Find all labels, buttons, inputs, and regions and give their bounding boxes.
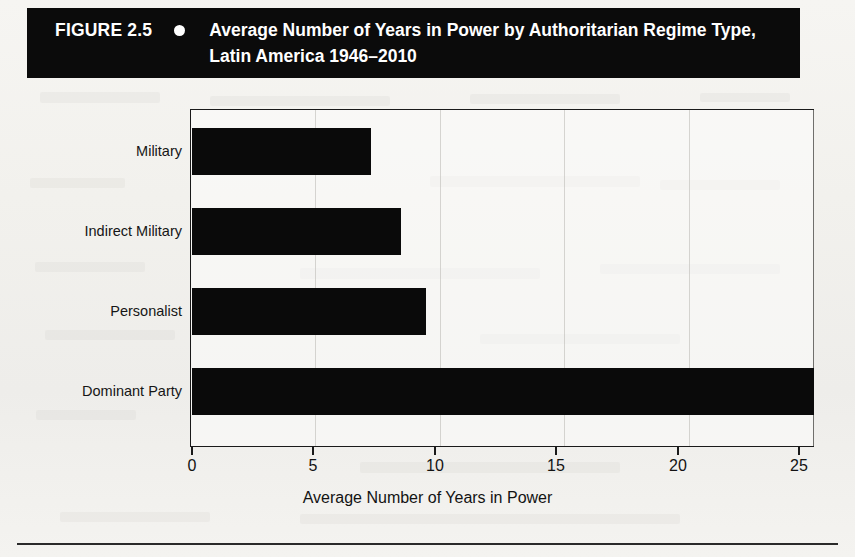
x-axis: 0 5 10 15 20 25: [0, 447, 855, 487]
x-tick-0: [191, 447, 193, 455]
bar-chart: Military Indirect Military Personalist D…: [0, 0, 855, 557]
x-tick-label-10: 10: [426, 457, 444, 475]
y-axis-category-labels: Military Indirect Military Personalist D…: [0, 109, 182, 447]
plot-area: [190, 109, 814, 447]
x-tick-25: [798, 447, 800, 455]
x-tick-label-20: 20: [669, 457, 687, 475]
x-tick-15: [555, 447, 557, 455]
y-tick-label-military: Military: [136, 143, 182, 159]
x-tick-label-25: 25: [790, 457, 808, 475]
bar-dominant-party: [192, 368, 814, 415]
bar-indirect-military: [192, 208, 401, 255]
x-tick-label-15: 15: [547, 457, 565, 475]
bar-military: [192, 128, 371, 175]
x-tick-label-5: 5: [309, 457, 318, 475]
x-tick-label-0: 0: [188, 457, 197, 475]
y-tick-label-indirect-military: Indirect Military: [85, 223, 183, 239]
x-tick-20: [677, 447, 679, 455]
x-tick-5: [312, 447, 314, 455]
bar-personalist: [192, 288, 426, 335]
x-axis-title: Average Number of Years in Power: [0, 489, 855, 507]
x-tick-10: [434, 447, 436, 455]
y-tick-label-personalist: Personalist: [110, 303, 182, 319]
bottom-rule-divider: [17, 543, 838, 545]
y-tick-label-dominant-party: Dominant Party: [82, 383, 182, 399]
